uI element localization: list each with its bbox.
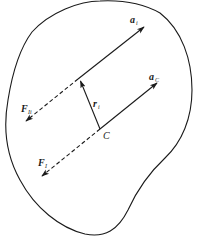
vector-a_i: [78, 27, 144, 79]
vector-a_C: [100, 83, 157, 129]
svg-text:i: i: [136, 20, 138, 26]
svg-text:a: a: [130, 14, 135, 25]
label-r_i: r i: [93, 98, 100, 110]
label-a_C: a C: [149, 71, 160, 83]
label-C: C: [103, 130, 110, 141]
svg-text:C: C: [155, 77, 160, 83]
svg-text:i: i: [98, 104, 100, 110]
vector-F_I: [42, 129, 100, 176]
label-F_I: F I: [37, 157, 48, 169]
svg-text:F: F: [37, 157, 45, 168]
svg-text:F: F: [20, 103, 28, 114]
vector-F_Ii: [26, 79, 78, 121]
body-outline: [6, 1, 192, 235]
label-a_i: a i: [130, 14, 138, 26]
svg-text:a: a: [149, 71, 154, 82]
svg-text:r: r: [93, 98, 97, 109]
svg-text:Ii: Ii: [27, 109, 32, 115]
label-F_Ii: F Ii: [20, 103, 32, 115]
rigid-body-diagram: a i a C F Ii F I r i C: [0, 0, 198, 237]
svg-text:C: C: [103, 130, 110, 141]
svg-text:I: I: [44, 163, 48, 169]
